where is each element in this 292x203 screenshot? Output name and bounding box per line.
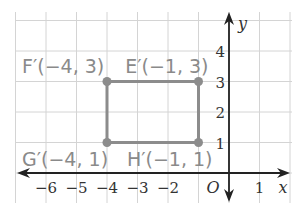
vertex-point (103, 77, 112, 86)
labels: −6−5−4−3−211234OxyF′(−4, 3)E′(−1, 3)H′(−… (22, 14, 288, 197)
vertex-label-g-prime: G′(−4, 1) (22, 148, 108, 170)
x-tick-label: −4 (96, 179, 118, 197)
vertex-point (103, 138, 112, 147)
x-tick-label: 1 (255, 179, 265, 197)
axes (17, 12, 290, 202)
grid (15, 12, 292, 203)
origin-label: O (206, 178, 219, 197)
x-axis-label: x (278, 178, 287, 197)
coordinate-plane-svg: −6−5−4−3−211234OxyF′(−4, 3)E′(−1, 3)H′(−… (0, 0, 292, 203)
y-tick-label: 1 (215, 135, 225, 153)
y-tick-label: 3 (215, 74, 225, 92)
vertex-label-f-prime: F′(−4, 3) (22, 55, 104, 77)
vertex-point (194, 138, 203, 147)
x-tick-label: −2 (157, 179, 179, 197)
y-axis-label: y (237, 14, 248, 33)
vertex-label-e-prime: E′(−1, 3) (125, 55, 208, 77)
y-tick-label: 4 (215, 43, 225, 61)
vertex-label-h-prime: H′(−1, 1) (127, 148, 213, 170)
x-tick-label: −3 (126, 179, 148, 197)
x-tick-label: −6 (35, 179, 57, 197)
x-tick-label: −5 (65, 179, 87, 197)
vertex-point (194, 77, 203, 86)
y-tick-label: 2 (215, 104, 225, 122)
coordinate-plane-figure: −6−5−4−3−211234OxyF′(−4, 3)E′(−1, 3)H′(−… (0, 0, 292, 203)
